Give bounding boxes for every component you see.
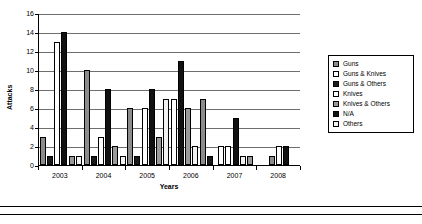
bar (192, 146, 198, 165)
bar (163, 99, 169, 166)
footer-rule-top (0, 206, 422, 207)
bar (178, 61, 184, 166)
x-tick-label: 2006 (171, 172, 211, 179)
y-tick-label: 12 (6, 48, 34, 55)
legend-item[interactable]: Others (333, 119, 410, 129)
bar (76, 156, 82, 166)
bar (233, 118, 239, 166)
y-tick-mark (35, 90, 38, 91)
legend-swatch-icon (333, 121, 339, 127)
y-tick-mark (35, 109, 38, 110)
bar (247, 156, 253, 166)
y-tick-label: 6 (6, 105, 34, 112)
legend-swatch-icon (333, 111, 339, 117)
x-tick-mark (38, 166, 39, 170)
x-tick-mark (82, 166, 83, 170)
y-tick-mark (35, 71, 38, 72)
bar (269, 156, 275, 166)
legend-item[interactable]: Guns & Knives (333, 69, 410, 79)
bar (149, 89, 155, 165)
y-tick-mark (35, 128, 38, 129)
legend-label: N/A (343, 109, 354, 119)
bar (207, 156, 213, 166)
legend-swatch-icon (333, 81, 339, 87)
bar (171, 99, 177, 166)
bar (185, 108, 191, 165)
legend-item[interactable]: Knives (333, 89, 410, 99)
bar (61, 32, 67, 165)
bar (69, 156, 75, 166)
bar (225, 146, 231, 165)
y-tick-mark (35, 52, 38, 53)
bar (40, 137, 46, 166)
y-tick-label: 2 (6, 143, 34, 150)
y-tick-mark (35, 14, 38, 15)
bar-group-container (39, 14, 300, 165)
legend-label: Guns & Others (343, 79, 386, 89)
legend-swatch-icon (333, 61, 339, 67)
legend-swatch-icon (333, 101, 339, 107)
bar (120, 156, 126, 166)
bar (142, 108, 148, 165)
y-tick-label: 0 (6, 162, 34, 169)
bar (47, 156, 53, 166)
bar (91, 156, 97, 166)
x-tick-mark (256, 166, 257, 170)
plot-area (38, 14, 300, 166)
bar (84, 70, 90, 165)
x-axis-title: Years (38, 183, 300, 190)
legend-label: Knives (343, 89, 363, 99)
y-tick-mark (35, 33, 38, 34)
legend-label: Others (343, 119, 363, 129)
x-tick-label: 2007 (215, 172, 255, 179)
y-tick-label: 16 (6, 10, 34, 17)
legend-item[interactable]: N/A (333, 109, 410, 119)
bar (283, 146, 289, 165)
bar (276, 146, 282, 165)
x-tick-label: 2004 (84, 172, 124, 179)
x-tick-label: 2005 (127, 172, 167, 179)
bar (156, 137, 162, 166)
legend-swatch-icon (333, 91, 339, 97)
bar (200, 99, 206, 166)
y-tick-label: 4 (6, 124, 34, 131)
legend-item[interactable]: Guns & Others (333, 79, 410, 89)
legend-item[interactable]: Guns (333, 59, 410, 69)
x-tick-mark (213, 166, 214, 170)
legend-swatch-icon (333, 71, 339, 77)
x-tick-label: 2003 (40, 172, 80, 179)
bar (218, 146, 224, 165)
bar (98, 137, 104, 166)
legend-label: Knives & Others (343, 99, 390, 109)
y-tick-label: 8 (6, 86, 34, 93)
y-tick-label: 10 (6, 67, 34, 74)
legend-label: Guns (343, 59, 359, 69)
footer-rule-bottom (0, 214, 422, 215)
x-tick-mark (169, 166, 170, 170)
x-tick-mark (300, 166, 301, 170)
x-tick-mark (125, 166, 126, 170)
y-tick-mark (35, 147, 38, 148)
chart-figure: Attacks 0246810121416 200320042005200620… (0, 0, 422, 224)
bar (54, 42, 60, 166)
legend-label: Guns & Knives (343, 69, 386, 79)
bar (112, 146, 118, 165)
x-tick-label: 2008 (258, 172, 298, 179)
bar (105, 89, 111, 165)
y-tick-label: 14 (6, 29, 34, 36)
legend-item[interactable]: Knives & Others (333, 99, 410, 109)
bar (127, 108, 133, 165)
legend: GunsGuns & KnivesGuns & OthersKnivesKniv… (328, 55, 414, 133)
bar (240, 156, 246, 166)
bar (134, 156, 140, 166)
